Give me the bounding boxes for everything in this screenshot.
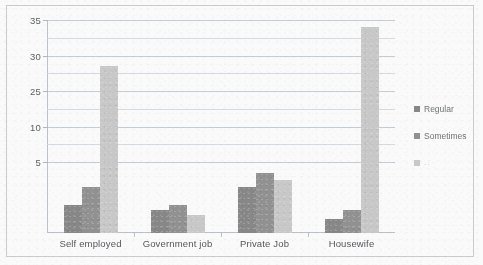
bar (64, 205, 82, 233)
x-axis-tick (134, 232, 135, 237)
y-axis-tick-label: 35 (30, 15, 41, 26)
x-axis-category-label: Private Job (240, 238, 289, 249)
bar (151, 210, 169, 233)
y-axis-tick (43, 127, 48, 128)
legend-label: Sometimes (424, 131, 467, 141)
bar (238, 187, 256, 233)
bar (343, 210, 361, 233)
bar (100, 66, 118, 233)
x-axis-tick (221, 232, 222, 237)
bar (325, 219, 343, 233)
bar-group (325, 20, 379, 233)
legend-item[interactable]: Regular (414, 104, 454, 114)
bar-group (151, 20, 205, 233)
legend-label: Regular (424, 104, 454, 114)
legend-swatch-icon (414, 133, 420, 139)
bar-group (64, 20, 118, 233)
x-axis-category-label: Self employed (59, 238, 121, 249)
x-axis-category-label: Government job (143, 238, 213, 249)
bar (256, 173, 274, 233)
y-axis-tick (43, 91, 48, 92)
y-axis-tick (43, 20, 48, 21)
bar (361, 27, 379, 233)
y-axis-tick (43, 56, 48, 57)
legend-swatch-icon (414, 160, 420, 166)
y-axis-tick (43, 162, 48, 163)
y-axis-tick-label: 5 (36, 157, 41, 168)
y-axis-tick-label: 30 (30, 50, 41, 61)
x-axis-labels: Self employedGovernment jobPrivate JobHo… (47, 238, 395, 258)
bar (169, 205, 187, 233)
legend-item[interactable]: .. (414, 158, 430, 168)
y-axis-labels: 353025105 (0, 20, 41, 233)
bar-group (238, 20, 292, 233)
y-axis-tick-label: 10 (30, 121, 41, 132)
x-axis-category-label: Housewife (329, 238, 375, 249)
bar (82, 187, 100, 233)
y-axis-tick-label: 25 (30, 86, 41, 97)
legend-swatch-icon (414, 106, 420, 112)
legend-item[interactable]: Sometimes (414, 131, 467, 141)
scanned-chart-page: 353025105 Self employedGovernment jobPri… (0, 0, 483, 265)
bar (187, 215, 205, 233)
x-axis-tick (308, 232, 309, 237)
legend-label: .. (424, 158, 430, 168)
bar (274, 180, 292, 233)
plot-area (47, 20, 395, 233)
